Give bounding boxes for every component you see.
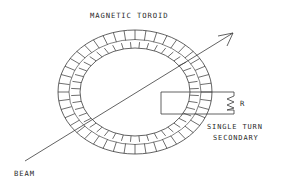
secondary-label-line1: SINGLE TURN <box>207 123 263 131</box>
resistor-label: R <box>240 99 245 108</box>
diagram-canvas: MAGNETIC TOROID BEAM <box>0 0 281 185</box>
single-turn-secondary-loop <box>161 92 212 114</box>
toroid-diagram-svg: MAGNETIC TOROID BEAM <box>0 0 281 185</box>
secondary-label-line2: SECONDARY <box>213 134 259 142</box>
beam-arrow <box>25 33 233 161</box>
diagram-title: MAGNETIC TOROID <box>90 11 168 20</box>
beam-label: BEAM <box>14 169 35 178</box>
resistor-symbol <box>227 96 234 110</box>
